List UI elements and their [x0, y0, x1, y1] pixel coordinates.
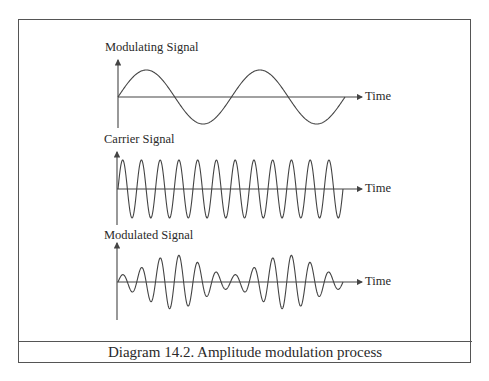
signal-plots — [0, 0, 489, 381]
modulating-axes — [118, 60, 362, 128]
